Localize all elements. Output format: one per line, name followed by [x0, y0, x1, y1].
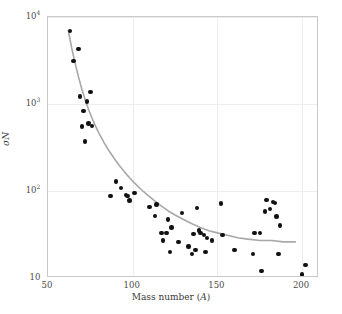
data-point	[80, 124, 84, 128]
data-point	[161, 238, 165, 242]
data-point	[276, 252, 280, 256]
data-point	[278, 223, 282, 227]
x-axis-tick-label: 200	[293, 280, 309, 290]
data-point	[264, 198, 268, 202]
data-point	[300, 272, 304, 276]
data-point	[186, 244, 190, 248]
data-point	[203, 250, 207, 254]
x-axis-tick-label: 50	[42, 280, 53, 290]
data-point	[252, 231, 256, 235]
data-point	[258, 231, 262, 235]
data-point	[76, 47, 80, 51]
data-point	[180, 211, 184, 215]
x-axis-tick-label: 100	[124, 280, 140, 290]
data-point	[219, 201, 223, 205]
y-axis-tick-label: 104	[0, 11, 43, 21]
x-axis-label: Mass number (A)	[0, 292, 342, 302]
y-axis-label: σN	[1, 132, 11, 146]
y-axis-tick-label: 102	[0, 185, 43, 195]
plot-inner	[48, 17, 317, 276]
data-point	[168, 250, 172, 254]
y-axis-tick-label: 10	[0, 272, 43, 282]
data-point	[263, 209, 267, 213]
data-point	[193, 248, 197, 252]
data-point	[259, 269, 263, 273]
data-point	[274, 214, 278, 218]
data-point	[251, 252, 255, 256]
data-point	[127, 198, 131, 202]
data-point	[85, 99, 89, 103]
data-point	[232, 248, 236, 252]
plot-area	[47, 16, 318, 277]
data-point	[153, 214, 157, 218]
data-point	[159, 231, 163, 235]
data-point	[108, 194, 112, 198]
data-point	[176, 240, 180, 244]
data-point	[164, 231, 168, 235]
fit-curve	[48, 17, 317, 276]
data-point	[191, 232, 195, 236]
data-point	[88, 90, 92, 94]
data-point	[78, 94, 82, 98]
data-point	[81, 109, 85, 113]
data-point	[169, 225, 173, 229]
data-point	[114, 179, 118, 183]
x-axis-tick-label: 150	[208, 280, 224, 290]
data-point	[190, 252, 194, 256]
data-point	[132, 191, 136, 195]
scatter-chart-figure: 10 102 103 104 σN 50100150200 Mass numbe…	[0, 0, 342, 314]
y-axis-tick-label: 103	[0, 98, 43, 108]
data-point	[154, 202, 158, 206]
